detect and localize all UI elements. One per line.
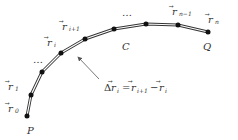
svg-text:i+1: i+1 [137, 87, 148, 94]
label-rn-1: ⃗ r n−1 [168, 5, 192, 17]
svg-text:i+1: i+1 [69, 25, 80, 32]
point-q [206, 30, 211, 35]
ellipsis-right: … [122, 7, 132, 18]
label-rn: ⃗ r n [204, 13, 219, 25]
svg-text:1: 1 [15, 85, 19, 92]
point-mid-c [144, 22, 149, 27]
curve-diagram: ⃗ r 0 ⃗ r 1 … ⃗ r i ⃗ r i+1 … ⃗ r n−1 ⃗ … [0, 0, 238, 140]
ellipsis-left: … [33, 54, 43, 65]
svg-text:0: 0 [15, 107, 19, 114]
svg-text:=: = [122, 82, 130, 93]
point-ri1 [83, 37, 88, 42]
point-mid-a [40, 70, 45, 75]
svg-text:i: i [54, 41, 56, 48]
svg-text:i: i [117, 87, 119, 94]
svg-text:r: r [172, 6, 178, 17]
curve-c [27, 24, 208, 116]
label-ri1: ⃗ r i+1 [58, 20, 80, 32]
partition-points [25, 22, 211, 119]
svg-text:r: r [8, 81, 14, 92]
svg-text:r: r [208, 14, 214, 25]
svg-text:i: i [165, 87, 167, 94]
label-c: C [122, 41, 130, 52]
point-mid-b [112, 27, 117, 32]
svg-text:n: n [215, 18, 219, 25]
label-r1: ⃗ r 1 [4, 80, 19, 92]
svg-text:r: r [8, 103, 14, 114]
svg-text:n−1: n−1 [179, 10, 192, 17]
svg-text:r: r [47, 37, 53, 48]
svg-text:−: − [150, 82, 158, 93]
point-ri [59, 51, 64, 56]
label-ri: ⃗ r i [43, 36, 56, 48]
label-q: Q [203, 41, 211, 52]
delta-equation: Δ ⃗ r i = ⃗ r i+1 − ⃗ r i [104, 80, 167, 94]
point-p [25, 114, 30, 119]
svg-text:r: r [62, 21, 68, 32]
label-r0: ⃗ r 0 [4, 102, 19, 114]
pointer-arrow [78, 57, 99, 79]
point-rn-1 [176, 23, 181, 28]
label-p: P [26, 125, 34, 136]
point-r1 [29, 93, 34, 98]
